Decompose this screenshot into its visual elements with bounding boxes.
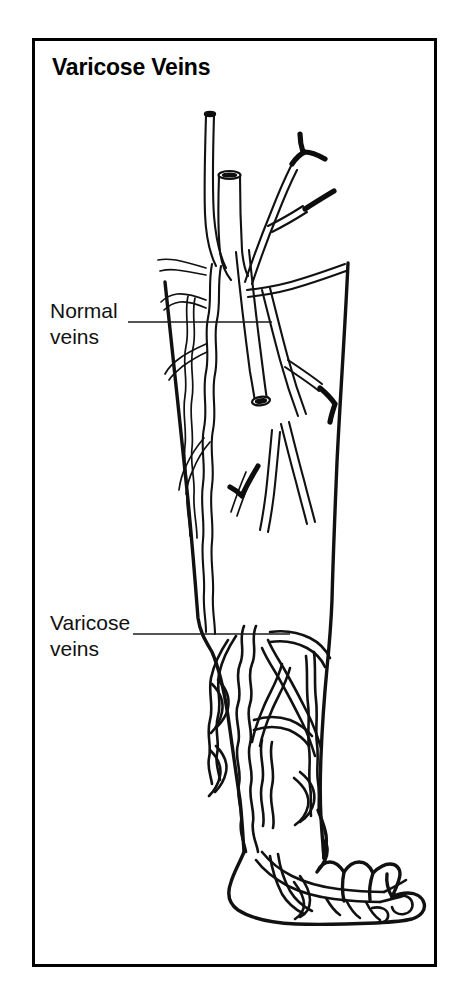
label-normal-veins-line1: Normal: [50, 299, 118, 322]
vein-lumen-wide: [223, 173, 237, 177]
vein-cut-end-thin: [205, 111, 216, 116]
illustration-canvas: Varicose Veins: [0, 0, 467, 1003]
label-normal-veins-line2: veins: [50, 325, 99, 348]
label-varicose-veins-line1: Varicose: [50, 611, 130, 634]
label-varicose-veins-line2: veins: [50, 637, 99, 660]
varicose-veins-figure: Varicose Veins: [0, 0, 467, 1003]
toe-divider-3: [343, 872, 345, 901]
figure-title: Varicose Veins: [52, 54, 210, 80]
